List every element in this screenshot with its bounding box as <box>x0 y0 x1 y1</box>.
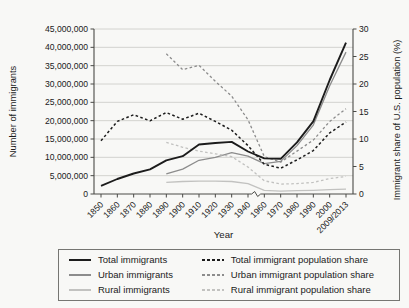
legend-label: Total immigrant population share <box>231 253 368 267</box>
legend-label: Total immigrants <box>98 253 167 267</box>
y-axis-left-tick-label: 15,000,000 <box>45 134 88 144</box>
legend-label: Urban immigrant population share <box>231 268 374 282</box>
x-axis-tick-label: 1870 <box>117 199 138 220</box>
legend-swatch-solid <box>69 289 91 291</box>
x-axis-title: Year <box>214 229 234 240</box>
series-path-rural-immigrants <box>166 181 346 191</box>
series-path-total-immigrants <box>101 43 346 186</box>
x-axis-tick-label: 1860 <box>101 199 122 220</box>
x-axis-tick-label: 1960 <box>248 199 269 220</box>
immigration-chart-figure: 05,000,00010,000,00015,000,00020,000,000… <box>0 0 409 308</box>
y-axis-right-tick-label: 5 <box>359 162 364 172</box>
y-axis-right-tick-label: 25 <box>359 52 369 62</box>
legend-swatch-dashed <box>202 259 224 261</box>
legend-item-total-immigrants: Total immigrants <box>69 253 202 267</box>
y-axis-left-tick-label: 25,000,000 <box>45 97 88 107</box>
legend-label: Rural immigrants <box>98 283 170 297</box>
y-axis-right-title: Immigrant share of U.S. population (%) <box>392 40 402 201</box>
legend-swatch-dashed <box>202 274 224 276</box>
x-axis-tick-label: 1990 <box>297 199 318 220</box>
y-axis-left-tick-label: 45,000,000 <box>45 24 88 34</box>
x-axis-tick-label: 1940 <box>232 199 253 220</box>
legend-swatch-dashed <box>202 289 224 291</box>
legend-item-rural-immigrants: Rural immigrants <box>69 283 202 297</box>
legend-label: Urban immigrants <box>98 268 173 282</box>
y-axis-left-tick-label: 35,000,000 <box>45 61 88 71</box>
y-axis-right-tick-label: 10 <box>359 134 369 144</box>
legend-swatch-solid <box>69 259 91 261</box>
y-axis-left-tick-label: 5,000,000 <box>50 171 88 181</box>
legend-swatch-solid <box>69 274 91 276</box>
y-axis-right-tick-label: 30 <box>359 24 369 34</box>
y-axis-left-tick-label: 20,000,000 <box>45 116 88 126</box>
x-axis-tick-label: 1890 <box>150 199 171 220</box>
x-axis-tick-label: 1900 <box>166 199 187 220</box>
legend-item-rural-immigrant-population-share: Rural immigrant population share <box>202 283 393 297</box>
legend-item-urban-immigrant-population-share: Urban immigrant population share <box>202 268 393 282</box>
x-axis-tick-label: 1850 <box>85 199 106 220</box>
chart-svg: 05,000,00010,000,00015,000,00020,000,000… <box>0 0 409 245</box>
legend-label: Rural immigrant population share <box>231 283 371 297</box>
x-axis-tick-label: 1980 <box>281 199 302 220</box>
x-axis-tick-label: 1910 <box>183 199 204 220</box>
legend-item-urban-immigrants: Urban immigrants <box>69 268 202 282</box>
x-axis-tick-label: 1930 <box>215 199 236 220</box>
y-axis-left-title: Number of immigrants <box>8 65 18 157</box>
y-axis-left-tick-label: 40,000,000 <box>45 42 88 52</box>
y-axis-right-tick-label: 0 <box>359 189 364 199</box>
chart-legend: Total immigrantsTotal immigrant populati… <box>58 249 400 301</box>
x-axis-tick-label: 1920 <box>199 199 220 220</box>
y-axis-left-tick-label: 30,000,000 <box>45 79 88 89</box>
y-axis-left-tick-label: 10,000,000 <box>45 152 88 162</box>
legend-item-total-immigrant-population-share: Total immigrant population share <box>202 253 393 267</box>
y-axis-right-tick-label: 20 <box>359 79 369 89</box>
y-axis-right-tick-label: 15 <box>359 107 369 117</box>
x-axis-tick-label: 1880 <box>134 199 155 220</box>
x-axis-tick-label: 1970 <box>264 199 285 220</box>
y-axis-left-tick-label: 0 <box>83 189 88 199</box>
